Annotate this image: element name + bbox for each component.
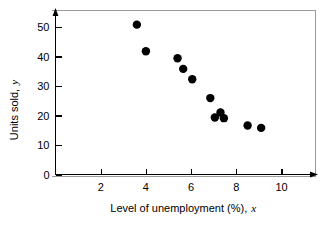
chart-canvas: 01020304050 246810 Level of unemployment… xyxy=(0,0,325,225)
y-axis-title: Units sold, y xyxy=(8,80,20,140)
data-points-layer xyxy=(133,20,266,132)
x-tick-label: 4 xyxy=(143,181,149,193)
x-axis-title: Level of unemployment (%), x xyxy=(110,202,256,214)
axes-group xyxy=(53,8,318,177)
data-point xyxy=(142,47,150,55)
data-point xyxy=(133,20,141,28)
x-tick-label: 10 xyxy=(275,181,287,193)
data-point xyxy=(188,75,196,83)
y-axis-title-variable: y xyxy=(8,80,20,86)
y-tick-label: 0 xyxy=(43,169,49,181)
data-point xyxy=(220,114,228,122)
y-axis-title-text: Units sold, xyxy=(8,89,20,140)
figure-frame xyxy=(52,10,315,176)
y-axis-ticks: 01020304050 xyxy=(37,21,61,181)
x-axis-ticks: 246810 xyxy=(98,169,288,193)
y-tick-label: 30 xyxy=(37,80,49,92)
y-tick-label: 10 xyxy=(37,139,49,151)
data-point xyxy=(257,124,265,132)
x-tick-label: 6 xyxy=(188,181,194,193)
x-axis-title-variable: x xyxy=(250,202,256,214)
data-point xyxy=(206,94,214,102)
y-tick-label: 50 xyxy=(37,21,49,33)
y-tick-label: 40 xyxy=(37,51,49,63)
x-tick-label: 8 xyxy=(233,181,239,193)
data-point xyxy=(179,65,187,73)
data-point xyxy=(173,54,181,62)
y-axis-arrow xyxy=(53,8,59,16)
x-axis-title-text: Level of unemployment (%), xyxy=(110,202,247,214)
data-point xyxy=(243,121,251,129)
y-tick-label: 20 xyxy=(37,110,49,122)
scatter-plot-figure: 01020304050 246810 Level of unemployment… xyxy=(0,0,325,225)
x-axis-arrow xyxy=(310,172,318,178)
x-tick-label: 2 xyxy=(98,181,104,193)
